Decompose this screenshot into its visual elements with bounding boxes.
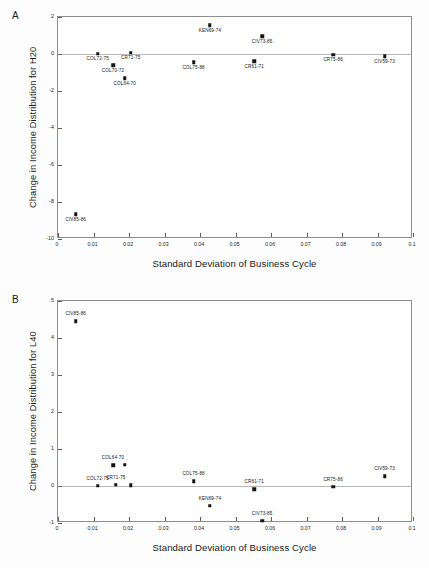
y-tick-a [58,202,62,203]
panel-letter-a: A [12,10,19,21]
data-point-marker [192,61,196,65]
data-point-label: COL72-75 [87,57,109,62]
x-tick-a [236,233,237,237]
y-tick-b [58,486,62,487]
y-tick-label-b: -1 [41,519,54,525]
x-tick-label-a: 0.05 [229,241,239,247]
x-tick-label-b: 0.08 [336,525,346,531]
y-tick-b [58,523,62,524]
x-tick-a [94,233,95,237]
x-tick-label-a: 0.07 [300,241,310,247]
x-tick-label-b: 0.02 [123,525,133,531]
x-tick-b [378,517,379,521]
x-tick-a [271,233,272,237]
data-point-label: COL64-70 [102,456,124,461]
panel-b: B Change in Income Distribution for L40 … [0,284,429,568]
x-tick-label-a: 0.06 [265,241,275,247]
panel-letter-b: B [12,294,19,305]
data-point-marker [74,213,78,217]
y-tick-label-b: 0 [41,482,54,488]
x-tick-a [200,233,201,237]
x-tick-b [58,517,59,521]
data-point-label: COL75-88 [182,66,204,71]
x-tick-label-b: 0.04 [194,525,204,531]
data-point-marker [253,59,257,63]
y-tick-label-a: 0 [41,50,54,56]
y-tick-a [58,165,62,166]
data-point-label: COL64-70 [114,82,136,87]
y-tick-a [58,54,62,55]
y-tick-label-a: -2 [41,87,54,93]
data-point-label: KEN69-74 [199,29,221,34]
x-tick-label-b: 0.06 [265,525,275,531]
x-axis-title-a: Standard Deviation of Business Cycle [57,258,412,269]
x-tick-label-a: 0.1 [408,241,415,247]
data-point-marker [114,483,118,487]
data-point-marker [74,320,78,324]
data-point-marker [192,479,196,483]
x-tick-b [236,517,237,521]
data-point-label: CIV85-86 [65,218,86,223]
data-point-label: CR61-71 [245,480,264,485]
x-tick-b [342,517,343,521]
data-point-label: CIV73-85 [252,40,273,45]
data-point-label: KEN69-74 [199,497,221,502]
y-tick-label-a: -8 [41,198,54,204]
x-tick-b [129,517,130,521]
plot-area-a: CIV85-86COL72-75COL70-72COL64-70CR71-75C… [57,16,412,238]
data-point-marker [111,464,115,468]
data-point-marker [383,475,387,479]
x-tick-label-a: 0 [56,241,59,247]
x-axis-title-b: Standard Deviation of Business Cycle [57,542,412,553]
x-tick-label-a: 0.01 [87,241,97,247]
x-tick-a [58,233,59,237]
y-tick-label-a: -10 [41,235,54,241]
x-tick-label-b: 0.07 [300,525,310,531]
y-tick-label-b: 1 [41,445,54,451]
x-tick-label-a: 0.08 [336,241,346,247]
plot-area-b: CIV85-86COL72-75COL64-70CR71-75COL75-88K… [57,300,412,522]
x-tick-a [378,233,379,237]
y-tick-label-a: -6 [41,161,54,167]
data-point-marker [123,463,127,467]
x-tick-b [94,517,95,521]
y-tick-label-b: 3 [41,371,54,377]
x-tick-label-b: 0.1 [408,525,415,531]
y-tick-a [58,91,62,92]
y-axis-title-a: Change in Income Distribution for H20 [28,46,38,207]
data-point-marker [129,51,133,55]
x-tick-label-b: 0.09 [371,525,381,531]
y-tick-a [58,128,62,129]
x-tick-a [129,233,130,237]
x-tick-b [165,517,166,521]
data-point-label: CR61-71 [245,65,264,70]
data-point-label: CIV73-85 [252,512,273,517]
x-tick-label-b: 0.03 [158,525,168,531]
data-point-label: COL75-88 [182,472,204,477]
x-tick-label-a: 0.02 [123,241,133,247]
data-point-marker [331,485,335,489]
y-tick-b [58,375,62,376]
y-tick-label-a: -4 [41,124,54,130]
data-point-marker [260,35,264,39]
x-tick-b [200,517,201,521]
data-point-marker [253,488,257,492]
zero-reference-line-a [58,54,411,55]
y-tick-label-b: 4 [41,334,54,340]
data-point-label: CR75-86 [323,58,342,63]
data-point-label: CIV59-73 [374,467,395,472]
data-point-marker [331,53,335,57]
y-tick-label-b: 2 [41,408,54,414]
x-tick-label-b: 0.01 [87,525,97,531]
x-tick-label-b: 0 [56,525,59,531]
data-point-marker [260,519,264,523]
data-point-marker [111,64,115,68]
x-tick-b [307,517,308,521]
y-tick-a [58,17,62,18]
y-tick-label-b: 5 [41,297,54,303]
data-point-label: CR75-86 [323,478,342,483]
data-point-marker [123,76,127,80]
y-tick-b [58,412,62,413]
x-tick-a [413,233,414,237]
data-point-marker [208,24,212,28]
